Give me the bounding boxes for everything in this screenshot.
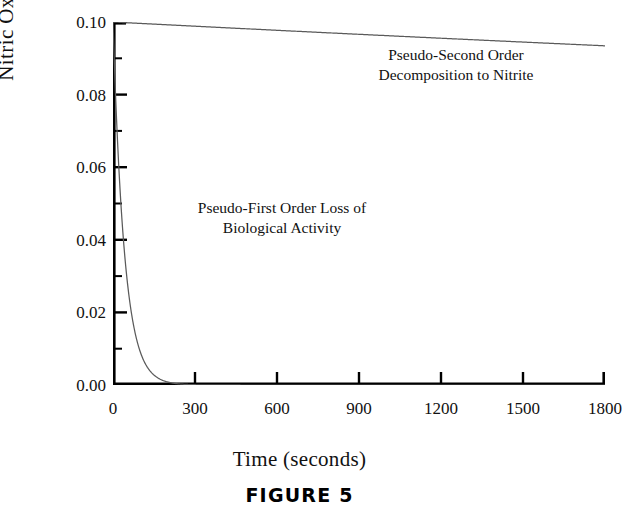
x-tick-label: 300 <box>160 400 230 417</box>
x-axis-tick-labels: 0300600900120015001800 <box>0 400 633 426</box>
figure-caption: FIGURE 5 <box>0 484 633 506</box>
y-tick-label: 0.10 <box>52 14 106 31</box>
x-tick-label: 1800 <box>570 400 633 417</box>
x-tick-label: 1200 <box>406 400 476 417</box>
x-tick-label: 0 <box>78 400 148 417</box>
annotation-first-order: Pseudo-First Order Loss of Biological Ac… <box>158 198 406 238</box>
y-tick-label: 0.06 <box>52 159 106 176</box>
figure-caption-text: FIGURE 5 <box>245 484 353 506</box>
y-tick-label: 0.00 <box>52 377 106 394</box>
curve-second-order <box>113 22 605 46</box>
y-tick-label: 0.08 <box>52 87 106 104</box>
y-tick-label: 0.04 <box>52 232 106 249</box>
x-tick-label: 900 <box>324 400 394 417</box>
x-tick-label: 1500 <box>488 400 558 417</box>
annotation-second-order: Pseudo-Second Order Decomposition to Nit… <box>340 45 572 85</box>
x-axis-title-text: Time (seconds) <box>233 447 367 471</box>
x-axis-title: Time (seconds) <box>0 447 633 472</box>
y-axis-tick-labels: 0.100.080.060.040.020.00 <box>46 0 106 519</box>
y-axis-title: Nitric Oxide [μM] <box>0 0 19 120</box>
y-tick-label: 0.02 <box>52 304 106 321</box>
figure-root: 0.100.080.060.040.020.00 030060090012001… <box>0 0 633 519</box>
x-tick-label: 600 <box>242 400 312 417</box>
